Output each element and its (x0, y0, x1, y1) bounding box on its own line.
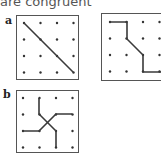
grid-dot (109, 70, 111, 72)
grid-dot (158, 54, 160, 56)
grid-dot (72, 22, 74, 24)
grid-dot (125, 54, 127, 56)
grid-dot (22, 97, 24, 99)
shape-line (23, 114, 72, 131)
grid-dot (56, 22, 58, 24)
grid-dot (39, 71, 41, 73)
grid-dot (38, 146, 40, 148)
grid-dot (22, 113, 24, 115)
grid-a-left (17, 16, 79, 80)
grid-a-right (102, 14, 162, 81)
grid-dot (71, 130, 73, 132)
dot-grid-diagram (0, 0, 161, 156)
grid-dot (71, 146, 73, 148)
grid-dot (71, 97, 73, 99)
grid-dot (56, 38, 58, 40)
grid-dot (109, 37, 111, 39)
shape-line (24, 23, 73, 72)
grid-dot (56, 71, 58, 73)
grid-dot (23, 38, 25, 40)
grid-dot (23, 55, 25, 57)
grid-dot (109, 54, 111, 56)
grid-dot (142, 37, 144, 39)
grid-dot (72, 55, 74, 57)
grid-dot (23, 71, 25, 73)
grid-dot (72, 38, 74, 40)
grid-dot (39, 55, 41, 57)
grid-dot (39, 22, 41, 24)
grid-dot (125, 70, 127, 72)
grid-dot (158, 37, 160, 39)
shape-line (110, 22, 161, 72)
grid-dot (55, 97, 57, 99)
grid-dot (158, 21, 160, 23)
grid-dot (22, 146, 24, 148)
grid-dot (142, 21, 144, 23)
grid-b (17, 91, 79, 153)
